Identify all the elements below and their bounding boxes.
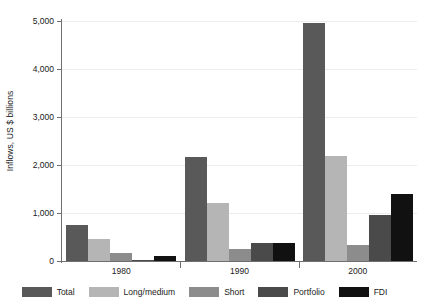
bar-chart-figure: Inflows, US $ billions 01,0002,0003,0004…: [0, 0, 423, 307]
bar: [251, 243, 273, 261]
legend-item-long-medium: Long/medium: [89, 287, 190, 297]
legend-swatch: [89, 287, 119, 297]
legend-swatch: [189, 287, 219, 297]
legend-label: Portfolio: [293, 287, 324, 297]
bar: [110, 253, 132, 261]
chart-legend: TotalLong/mediumShortPortfolioFDI: [0, 283, 423, 301]
plot-area: [62, 21, 417, 261]
bar: [391, 194, 413, 261]
legend-item-fdi: FDI: [339, 287, 402, 297]
bar: [185, 157, 207, 261]
x-axis-group-label-1990: 1990: [230, 266, 249, 276]
bar: [154, 256, 176, 261]
x-axis-separator-tick: [299, 262, 300, 268]
legend-label: Total: [57, 287, 75, 297]
bar: [88, 239, 110, 261]
bar: [273, 243, 295, 261]
y-axis-tick-label: 0: [8, 256, 54, 266]
bar: [369, 215, 391, 261]
bar: [303, 23, 325, 261]
legend-item-short: Short: [189, 287, 258, 297]
legend-swatch: [22, 287, 52, 297]
gridline: [62, 213, 417, 214]
bar: [66, 225, 88, 261]
x-axis-group-label-1980: 1980: [112, 266, 131, 276]
gridline: [62, 165, 417, 166]
gridline: [62, 117, 417, 118]
bar: [325, 156, 347, 261]
y-axis-tick-label: 4,000: [8, 64, 54, 74]
y-axis-tick-label: 2,000: [8, 160, 54, 170]
gridline: [62, 69, 417, 70]
y-axis-tick: [57, 261, 62, 262]
legend-swatch: [258, 287, 288, 297]
legend-item-portfolio: Portfolio: [258, 287, 338, 297]
x-axis-line: [61, 261, 417, 262]
y-axis-title: Inflows, US $ billions: [2, 0, 18, 262]
y-axis-tick-label: 3,000: [8, 112, 54, 122]
bar: [132, 260, 154, 261]
y-axis-tick-label: 1,000: [8, 208, 54, 218]
gridline: [62, 21, 417, 22]
legend-label: Short: [224, 287, 244, 297]
legend-label: FDI: [374, 287, 388, 297]
legend-label: Long/medium: [124, 287, 176, 297]
y-axis-tick-label: 5,000: [8, 16, 54, 26]
legend-swatch: [339, 287, 369, 297]
x-axis-group-label-2000: 2000: [348, 266, 367, 276]
x-axis-separator-tick: [180, 262, 181, 268]
legend-item-total: Total: [22, 287, 89, 297]
bar: [207, 203, 229, 261]
bar: [347, 245, 369, 261]
bar: [229, 249, 251, 261]
